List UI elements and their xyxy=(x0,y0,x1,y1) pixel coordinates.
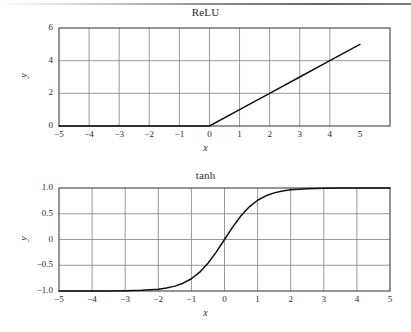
chart-relu-ytick-label: 0 xyxy=(13,120,53,130)
chart-relu-ytick-label: 6 xyxy=(13,22,53,32)
chart-tanh-ytick-label: 1.0 xyxy=(13,182,53,192)
chart-tanh-ytick-label: −0.5 xyxy=(13,259,53,269)
chart-relu-ytick-label: 2 xyxy=(13,87,53,97)
chart-tanh: tanh x y −5−4−3−2−1012345−1.0−0.500.51.0 xyxy=(0,166,411,332)
chart-relu: ReLU x y −5−4−3−2−10123450246 xyxy=(0,0,411,166)
chart-tanh-ytick-label: 0.5 xyxy=(13,208,53,218)
chart-relu-xtick-label: 5 xyxy=(340,129,380,139)
chart-tanh-xtick-label: 5 xyxy=(370,294,410,304)
chart-tanh-xlabel: x xyxy=(0,307,411,318)
chart-relu-ytick-label: 4 xyxy=(13,55,53,65)
chart-tanh-ytick-label: 0 xyxy=(13,234,53,244)
chart-relu-xlabel: x xyxy=(0,142,411,153)
figure-page: ReLU x y −5−4−3−2−10123450246 tanh x y −… xyxy=(0,0,411,332)
chart-tanh-ytick-label: −1.0 xyxy=(13,285,53,295)
chart-relu-ylabel: y xyxy=(18,69,29,83)
